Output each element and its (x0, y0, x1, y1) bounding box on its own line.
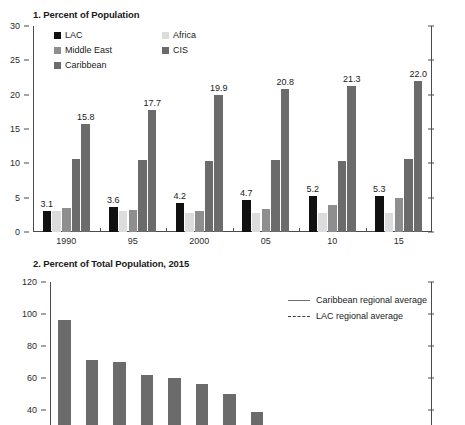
legend-label-cis: CIS (173, 45, 188, 55)
chart-2-bar (113, 362, 126, 425)
chart-1-y-tick-mark-right (428, 232, 434, 233)
chart-1-x-tick-label: 95 (128, 236, 138, 246)
chart-1-bar-lac (176, 203, 185, 232)
legend-solid-line-icon (288, 300, 310, 301)
legend-item-africa: Africa (162, 30, 196, 40)
chart-1-bar-middle-east (195, 211, 204, 232)
chart-1-plot-area (33, 26, 432, 232)
chart-2-bar (251, 412, 264, 425)
chart-1-bar-middle-east (328, 205, 337, 232)
chart-1-bar-caribbean (72, 159, 81, 232)
legend-label-middle-east: Middle East (65, 45, 112, 55)
legend-item-lac: LAC (54, 30, 83, 40)
chart-1-x-tick-label: 1990 (56, 236, 76, 246)
legend-label-lac: LAC (65, 30, 83, 40)
chart-2-y-tick-mark (41, 410, 46, 411)
chart-2-bar (168, 378, 181, 425)
legend-label-caribbean: Caribbean (65, 60, 107, 70)
chart-1-bar-value-label: 3.1 (41, 199, 54, 209)
chart-1-x-tick-label: 15 (394, 236, 404, 246)
chart-1-y-tick-mark-right (428, 163, 434, 164)
chart-1-bar-value-label: 4.2 (174, 191, 187, 201)
chart-2-bar (223, 394, 236, 425)
chart-2-bar (58, 320, 71, 425)
chart-1-y-tick-label: 30 (2, 21, 20, 31)
chart-2-y-tick-label: 80 (2, 341, 37, 351)
chart-1-y-tick-mark (24, 163, 29, 164)
chart-1-y-tick-label: 25 (2, 55, 20, 65)
chart-1-bar-value-label: 5.3 (373, 184, 386, 194)
chart-1-bar-value-label: 19.9 (210, 83, 228, 93)
legend-swatch-icon-africa (162, 32, 169, 39)
chart-1-y-tick-mark (24, 94, 29, 95)
chart-1-x-tick-label: 05 (261, 236, 271, 246)
chart-1-bar-value-label: 20.8 (276, 77, 294, 87)
chart-1-bar-africa (252, 213, 261, 232)
legend-swatch-icon-middle-east (54, 47, 61, 54)
chart-1-bar-middle-east (62, 208, 71, 232)
chart-1-bar-value-label: 22.0 (409, 69, 427, 79)
chart-2-y-tick-mark-right (428, 410, 434, 411)
chart-1-bar-cis (281, 89, 290, 232)
panel-1-title: 1. Percent of Population (33, 9, 139, 20)
chart-1-x-tick-label: 2000 (189, 236, 209, 246)
chart-1-bar-value-label: 15.8 (77, 112, 95, 122)
legend-item-middle-east: Middle East (54, 45, 112, 55)
chart-1-bar-africa (119, 211, 128, 232)
chart-1-bar-middle-east (395, 198, 404, 232)
chart-2-bar (196, 384, 209, 425)
chart-2-y-tick-mark-right (428, 378, 434, 379)
legend-label-africa: Africa (173, 30, 196, 40)
chart-1-y-tick-mark (24, 197, 29, 198)
chart-1-y-tick-mark-right (428, 26, 434, 27)
chart-1-bar-caribbean (138, 160, 147, 232)
chart-1-bar-caribbean (404, 159, 413, 232)
chart-2-y-tick-label: 120 (2, 277, 37, 287)
legend-swatch-icon-caribbean (54, 62, 61, 69)
chart-1-x-tick-mark (233, 228, 234, 232)
chart-1-y-tick-label: 0 (2, 227, 20, 237)
legend-item-cis: CIS (162, 45, 188, 55)
chart-2-y-tick-mark-right (428, 346, 434, 347)
chart-2-y-tick-mark (41, 314, 46, 315)
chart-1-y-tick-mark (24, 26, 29, 27)
legend-label-caribbean-regional-average: Caribbean regional average (316, 295, 427, 305)
panel-2-title: 2. Percent of Total Population, 2015 (33, 258, 189, 269)
chart-1-x-tick-mark (100, 228, 101, 232)
chart-1-bar-caribbean (338, 161, 347, 232)
chart-1-bar-cis (347, 86, 356, 232)
chart-1-x-tick-mark (166, 228, 167, 232)
chart-1-y-tick-label: 5 (2, 193, 20, 203)
chart-1-bar-value-label: 21.3 (343, 74, 361, 84)
chart-1-y-tick-label: 15 (2, 124, 20, 134)
chart-1-bar-lac (375, 196, 384, 232)
chart-1-x-tick-label: 10 (327, 236, 337, 246)
chart-2-y-tick-label: 60 (2, 373, 37, 383)
legend-item-lac-regional-average: LAC regional average (288, 311, 403, 321)
legend-item-caribbean-regional-average: Caribbean regional average (288, 295, 427, 305)
chart-1-x-tick-mark (366, 228, 367, 232)
figure-page: 1. Percent of Population 051015202530 19… (0, 0, 465, 425)
chart-2-bar (141, 375, 154, 425)
chart-1-bar-africa (185, 213, 194, 232)
chart-1-bar-africa (385, 213, 394, 232)
chart-1-bar-value-label: 5.2 (307, 184, 320, 194)
chart-1-y-tick-mark-right (428, 60, 434, 61)
chart-1-bar-lac (242, 200, 251, 232)
chart-1-bar-value-label: 3.6 (107, 195, 120, 205)
chart-2-bar (86, 360, 99, 425)
chart-1-bar-lac (43, 211, 52, 232)
chart-1-y-tick-label: 20 (2, 90, 20, 100)
chart-1-bar-value-label: 4.7 (240, 188, 253, 198)
chart-1-bar-caribbean (271, 160, 280, 232)
chart-1-bar-cis (148, 110, 157, 232)
chart-1-x-tick-mark (299, 228, 300, 232)
chart-1-bar-middle-east (262, 209, 271, 232)
chart-1-y-tick-label: 10 (2, 158, 20, 168)
chart-1-bar-lac (109, 207, 118, 232)
chart-1-bar-lac (309, 196, 318, 232)
chart-1-y-tick-mark-right (428, 129, 434, 130)
legend-label-lac-regional-average: LAC regional average (316, 311, 403, 321)
chart-1-y-tick-mark (24, 129, 29, 130)
chart-1-y-tick-mark (24, 60, 29, 61)
